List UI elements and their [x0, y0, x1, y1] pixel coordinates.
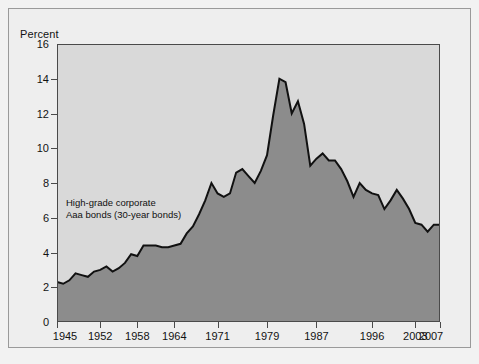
x-axis-tick-mark: [174, 322, 175, 328]
x-axis-tick-mark: [100, 322, 101, 328]
y-axis-tick-labels: 0246810121416: [18, 44, 49, 322]
y-axis-tick-label: 16: [37, 38, 49, 50]
x-axis-tick-label: 2007: [419, 330, 443, 342]
x-axis-tick-mark: [440, 322, 441, 328]
x-axis-tick-label: 1952: [88, 330, 112, 342]
series-annotation: High-grade corporateAaa bonds (30-year b…: [66, 197, 181, 221]
y-axis-tick-label: 8: [43, 177, 49, 189]
y-axis-tick-label: 10: [37, 142, 49, 154]
x-axis-tick-mark: [218, 322, 219, 328]
y-axis-tick-label: 4: [43, 247, 49, 259]
x-axis-tick-mark: [267, 322, 268, 328]
x-axis-tick-label: 1996: [360, 330, 384, 342]
x-axis-tick-label: 1971: [205, 330, 229, 342]
x-axis-tick-label: 1979: [255, 330, 279, 342]
x-axis-tick-label: 1987: [304, 330, 328, 342]
x-axis-tick-marks: [57, 322, 440, 328]
x-axis-tick-labels: 1945195219581964197119791987199620032007: [57, 330, 440, 346]
x-axis-tick-mark: [372, 322, 373, 328]
x-axis-tick-mark: [57, 322, 58, 328]
y-axis-tick-label: 0: [43, 316, 49, 328]
y-axis-tick-label: 6: [43, 212, 49, 224]
x-axis-tick-mark: [316, 322, 317, 328]
plot-area: [57, 44, 440, 322]
y-axis-tick-label: 14: [37, 73, 49, 85]
x-axis-tick-label: 1958: [125, 330, 149, 342]
x-axis-tick-mark: [415, 322, 416, 328]
x-axis-tick-label: 1945: [53, 330, 77, 342]
y-axis-tick-label: 2: [43, 281, 49, 293]
x-axis-tick-label: 1964: [162, 330, 186, 342]
x-axis-tick-mark: [137, 322, 138, 328]
figure-root: Percent 0246810121416 194519521958196419…: [0, 0, 479, 364]
y-axis-tick-label: 12: [37, 108, 49, 120]
area-series-chart: [57, 44, 440, 322]
series-annotation-line: Aaa bonds (30-year bonds): [66, 209, 181, 221]
series-annotation-line: High-grade corporate: [66, 197, 181, 209]
